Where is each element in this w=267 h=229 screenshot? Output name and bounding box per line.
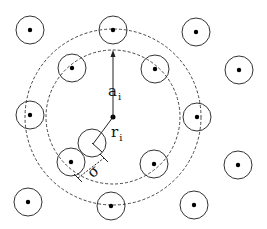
particle xyxy=(14,188,42,216)
particle xyxy=(16,16,44,44)
particle-center-dot xyxy=(194,30,198,34)
particle-center-dot xyxy=(236,163,240,167)
particle-center-dot xyxy=(26,200,30,204)
particle-center-dot xyxy=(237,68,241,72)
particle xyxy=(180,191,208,219)
r-i-line xyxy=(93,117,113,144)
particle xyxy=(225,56,253,84)
particle xyxy=(182,18,210,46)
particle-center-dot xyxy=(152,162,156,166)
particle-center-dot xyxy=(111,28,115,32)
particle xyxy=(183,103,211,131)
particle-center-dot xyxy=(69,160,73,164)
particle xyxy=(97,192,125,220)
particle-center-dot xyxy=(109,204,113,208)
particle-center-dot xyxy=(28,28,32,32)
particle-center-dot xyxy=(70,66,74,70)
probe-radius-line xyxy=(92,143,102,152)
particle-center-dot xyxy=(28,113,32,117)
particle xyxy=(16,101,44,129)
particle xyxy=(58,54,86,82)
particles xyxy=(14,16,253,220)
particle-center-dot xyxy=(153,67,157,71)
lattice-diagram: ai ri σ xyxy=(0,0,267,229)
a-i-label: ai xyxy=(108,82,121,102)
particle-center-dot xyxy=(192,203,196,207)
particle xyxy=(99,16,127,44)
particle xyxy=(224,151,252,179)
particle xyxy=(141,55,169,83)
particle xyxy=(140,150,168,178)
r-i-label: ri xyxy=(111,123,122,143)
particle-center-dot xyxy=(195,115,199,119)
